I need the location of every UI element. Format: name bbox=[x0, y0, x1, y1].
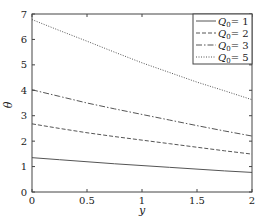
y-tick-label: 5 bbox=[21, 59, 27, 70]
series-line-2 bbox=[32, 124, 252, 154]
legend: Q0= 1Q0= 2Q0= 3Q0= 5 bbox=[193, 14, 252, 65]
line-chart: 00.511.5201234567 y θ Q0= 1Q0= 2Q0= 3Q0=… bbox=[0, 0, 263, 220]
y-tick-label: 1 bbox=[21, 161, 27, 172]
y-tick-label: 4 bbox=[21, 85, 27, 96]
x-axis-label: y bbox=[138, 204, 146, 217]
y-axis-label: θ bbox=[2, 101, 15, 108]
x-tick-label: 2 bbox=[249, 195, 255, 206]
y-tick-label: 2 bbox=[21, 136, 27, 147]
x-tick-label: 0.5 bbox=[79, 195, 95, 206]
y-tick-label: 3 bbox=[21, 110, 27, 121]
y-tick-label: 7 bbox=[21, 9, 27, 20]
x-tick-label: 0 bbox=[29, 195, 35, 206]
y-tick-label: 6 bbox=[21, 34, 27, 45]
y-tick-label: 0 bbox=[21, 187, 27, 198]
x-tick-label: 1.5 bbox=[189, 195, 205, 206]
series-line-1 bbox=[32, 158, 252, 173]
